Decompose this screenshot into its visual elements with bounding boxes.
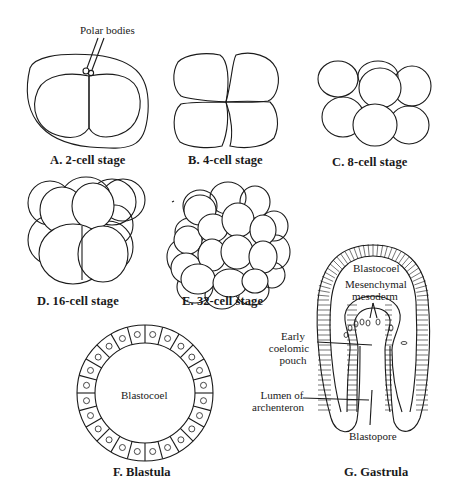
label-gastrula-blastocoel: Blastocoel [353, 262, 399, 275]
eight-cell-embryo [318, 61, 431, 146]
caption-16-cell: D. 16-cell stage [37, 294, 119, 309]
embryo-diagram [0, 0, 456, 484]
caption-2-cell: A. 2-cell stage [50, 153, 125, 168]
label-blastula-blastocoel: Blastocoel [121, 389, 167, 402]
four-cell-embryo [174, 53, 279, 147]
caption-8-cell: C. 8-cell stage [332, 155, 407, 170]
two-cell-embryo [27, 38, 148, 148]
caption-4-cell: B. 4-cell stage [188, 153, 263, 168]
label-mesenchymal-line2: mesoderm [345, 290, 405, 303]
thirty-two-cell-embryo [167, 182, 290, 309]
label-coelomic-line3: pouch [268, 354, 318, 367]
caption-gastrula: G. Gastrula [344, 465, 408, 480]
mesenchyme-cells [344, 319, 407, 345]
label-blastopore: Blastopore [349, 430, 397, 443]
label-lumen-line2: archenteron [248, 401, 308, 414]
sixteen-cell-embryo [28, 177, 145, 284]
caption-blastula: F. Blastula [113, 465, 171, 480]
caption-32-cell: E. 32-cell stage [182, 294, 263, 309]
polar-body-2 [88, 70, 93, 75]
label-polar-bodies: Polar bodies [80, 24, 135, 37]
